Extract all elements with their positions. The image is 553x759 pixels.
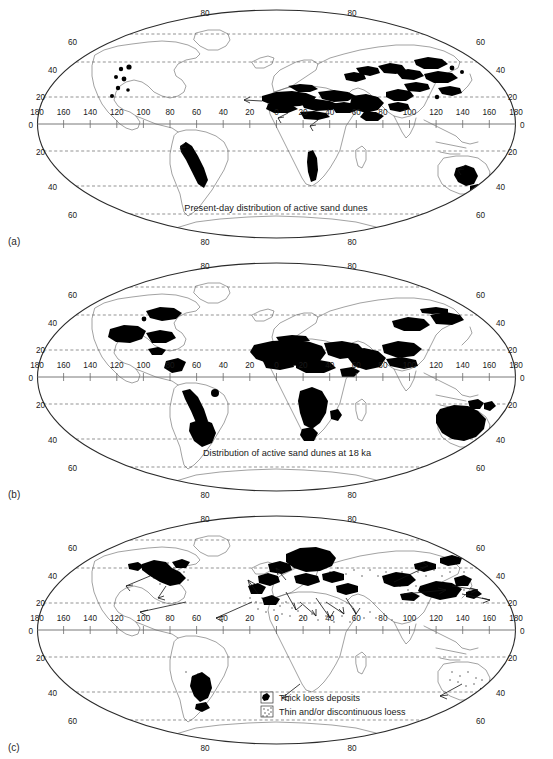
sand-dune-areas-b <box>108 307 496 467</box>
lon-label: 120 <box>429 614 443 623</box>
panel-label-c: (c) <box>8 742 20 753</box>
lat-label-top-left: 80 <box>200 515 210 524</box>
legend-label-thin-loess: Thin and/or discontinuous loess <box>279 707 406 717</box>
lat-label-left: 20 <box>36 401 46 410</box>
lon-label: 120 <box>110 614 124 623</box>
lon-label: 80 <box>378 108 388 117</box>
lon-label: 180 <box>30 108 44 117</box>
lat-label-bottom-left: 80 <box>200 238 210 247</box>
lat-label-right: 20 <box>508 93 518 102</box>
lon-label: 120 <box>429 108 443 117</box>
lon-label: 100 <box>137 108 151 117</box>
lon-label: 80 <box>165 108 175 117</box>
lon-label: 20 <box>245 108 255 117</box>
lat-label-left: 40 <box>48 572 58 581</box>
lat-label-left: 20 <box>36 599 46 608</box>
lat-label-top-left: 80 <box>200 262 210 271</box>
legend-label-thick-loess: Thick loess deposits <box>279 693 361 703</box>
lat-label-right: 40 <box>496 436 506 445</box>
lon-label: 20 <box>245 614 255 623</box>
lat-label-right: 40 <box>496 319 506 328</box>
lon-label: 80 <box>165 361 175 370</box>
lat-label-bottom-right: 80 <box>347 238 357 247</box>
lat-label-left: 60 <box>68 717 78 726</box>
world-map-b: 180 160 140 120 100 80 60 40 20 0 20 40 … <box>0 253 553 506</box>
lon-label: 40 <box>325 108 335 117</box>
lon-label: 160 <box>57 361 71 370</box>
lat-label-left: 60 <box>68 38 78 47</box>
map-panel-b: 180 160 140 120 100 80 60 40 20 0 20 40 … <box>0 253 553 506</box>
lat-label-left: 20 <box>36 346 46 355</box>
lon-label: 0 <box>274 614 279 623</box>
lon-label: 100 <box>403 614 417 623</box>
lon-label: 180 <box>30 614 44 623</box>
map-panel-c: 180 160 140 120 100 80 60 40 20 0 20 40 … <box>0 506 553 759</box>
lon-label: 160 <box>57 108 71 117</box>
lon-label: 160 <box>482 108 496 117</box>
lat-label-left: 60 <box>68 544 78 553</box>
lon-label: 100 <box>137 614 151 623</box>
lon-label: 140 <box>83 108 97 117</box>
panel-label-b: (b) <box>8 489 20 500</box>
coastlines-a <box>92 30 508 228</box>
lon-label: 180 <box>30 361 44 370</box>
lat-label-right: 60 <box>476 544 486 553</box>
lon-label: 160 <box>57 614 71 623</box>
lon-label: 60 <box>192 108 202 117</box>
lon-label: 100 <box>137 361 151 370</box>
lat-label-bottom-right: 80 <box>347 744 357 753</box>
lat-label-right: 20 <box>508 346 518 355</box>
panel-label-a: (a) <box>8 236 20 247</box>
lon-label: 120 <box>110 108 124 117</box>
lon-label: 100 <box>403 108 417 117</box>
lon-label: 20 <box>299 614 309 623</box>
lat-label-top-left: 80 <box>200 9 210 18</box>
map-legend-c: Thick loess deposits Thin and/or discont… <box>261 692 406 717</box>
lon-label: 180 <box>509 614 523 623</box>
lon-label: 140 <box>83 614 97 623</box>
lat-label-left: 0 <box>28 374 33 383</box>
lat-label-right: 20 <box>508 148 518 157</box>
lon-label: 40 <box>219 361 229 370</box>
lon-label: 80 <box>378 614 388 623</box>
world-map-c: 180 160 140 120 100 80 60 40 20 0 20 40 … <box>0 506 553 759</box>
lon-label: 60 <box>352 108 362 117</box>
lat-label-right: 20 <box>508 599 518 608</box>
longitude-labels-a: 180 160 140 120 100 80 60 40 20 0 20 40 … <box>30 108 523 117</box>
lon-label: 40 <box>219 614 229 623</box>
lat-label-left: 60 <box>68 464 78 473</box>
lat-label-right: 0 <box>520 627 525 636</box>
lon-label: 180 <box>509 361 523 370</box>
lon-label: 0 <box>274 361 279 370</box>
lat-label-right: 40 <box>496 66 506 75</box>
lon-label: 120 <box>110 361 124 370</box>
lat-label-top-right: 80 <box>347 9 357 18</box>
lat-label-right: 20 <box>508 401 518 410</box>
lat-label-right: 40 <box>496 572 506 581</box>
lon-label: 60 <box>352 361 362 370</box>
lat-label-left: 0 <box>28 627 33 636</box>
lat-label-right: 60 <box>476 211 486 220</box>
lat-label-top-right: 80 <box>347 515 357 524</box>
lat-label-bottom-left: 80 <box>200 744 210 753</box>
lat-label-right: 60 <box>476 464 486 473</box>
lat-label-left: 40 <box>48 319 58 328</box>
lat-label-left: 0 <box>28 121 33 130</box>
lat-label-right: 60 <box>476 38 486 47</box>
lon-label: 120 <box>429 361 443 370</box>
lon-label: 40 <box>325 614 335 623</box>
lat-label-right: 60 <box>476 717 486 726</box>
panel-caption-b: Distribution of active sand dunes at 18 … <box>203 448 372 458</box>
lat-label-right: 40 <box>496 183 506 192</box>
panel-caption-a: Present-day distribution of active sand … <box>184 203 368 213</box>
lat-label-left: 20 <box>36 148 46 157</box>
lat-label-right: 20 <box>508 654 518 663</box>
lat-label-bottom-right: 80 <box>347 491 357 500</box>
lon-label: 100 <box>403 361 417 370</box>
lon-label: 140 <box>456 361 470 370</box>
lon-label: 60 <box>192 361 202 370</box>
lat-label-left: 40 <box>48 183 58 192</box>
world-map-a: 180 160 140 120 100 80 60 40 20 0 20 40 … <box>0 0 553 253</box>
longitude-labels-c: 180 160 140 120 100 80 60 40 20 0 20 40 … <box>30 614 523 623</box>
lon-label: 40 <box>219 108 229 117</box>
